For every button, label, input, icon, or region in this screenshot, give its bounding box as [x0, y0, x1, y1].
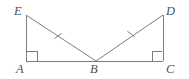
right-angle-c [152, 51, 162, 61]
vertex-label-e: E [14, 5, 22, 18]
vertex-label-d: D [166, 5, 175, 18]
vertex-label-b: B [90, 63, 98, 76]
right-angle-a [27, 51, 37, 61]
vertex-label-a: A [16, 63, 24, 76]
tick-mark-bd [127, 31, 134, 36]
geometry-figure: E D A B C [0, 0, 189, 79]
vertex-label-c: C [166, 63, 174, 76]
segment-bd [96, 15, 163, 61]
